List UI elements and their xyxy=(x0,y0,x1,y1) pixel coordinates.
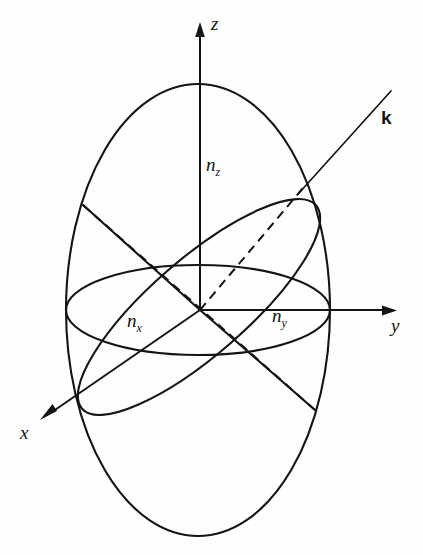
n-z-label: nz xyxy=(206,155,220,178)
z-axis-label: z xyxy=(211,14,218,33)
indicatrix-figure: z y x k nz nx ny xyxy=(0,0,423,555)
x-axis-label: x xyxy=(20,423,28,442)
y-axis-arrowhead xyxy=(382,306,397,316)
n-y-base: n xyxy=(272,305,282,326)
y-axis-label: y xyxy=(391,316,399,335)
n-x-subscript: x xyxy=(137,321,142,335)
n-z-base: n xyxy=(206,154,216,175)
z-axis-arrowhead xyxy=(195,22,205,37)
n-y-subscript: y xyxy=(282,316,287,330)
k-vector-label: k xyxy=(381,108,392,127)
n-y-label: ny xyxy=(272,306,287,329)
k-vector-solid-segment xyxy=(299,91,391,193)
k-vector-dashed-segment xyxy=(200,188,303,310)
diagram-canvas xyxy=(0,0,423,555)
n-x-label: nx xyxy=(127,311,142,334)
x-axis-arrowhead xyxy=(40,404,57,420)
n-x-base: n xyxy=(127,310,137,331)
n-z-subscript: z xyxy=(216,165,221,179)
